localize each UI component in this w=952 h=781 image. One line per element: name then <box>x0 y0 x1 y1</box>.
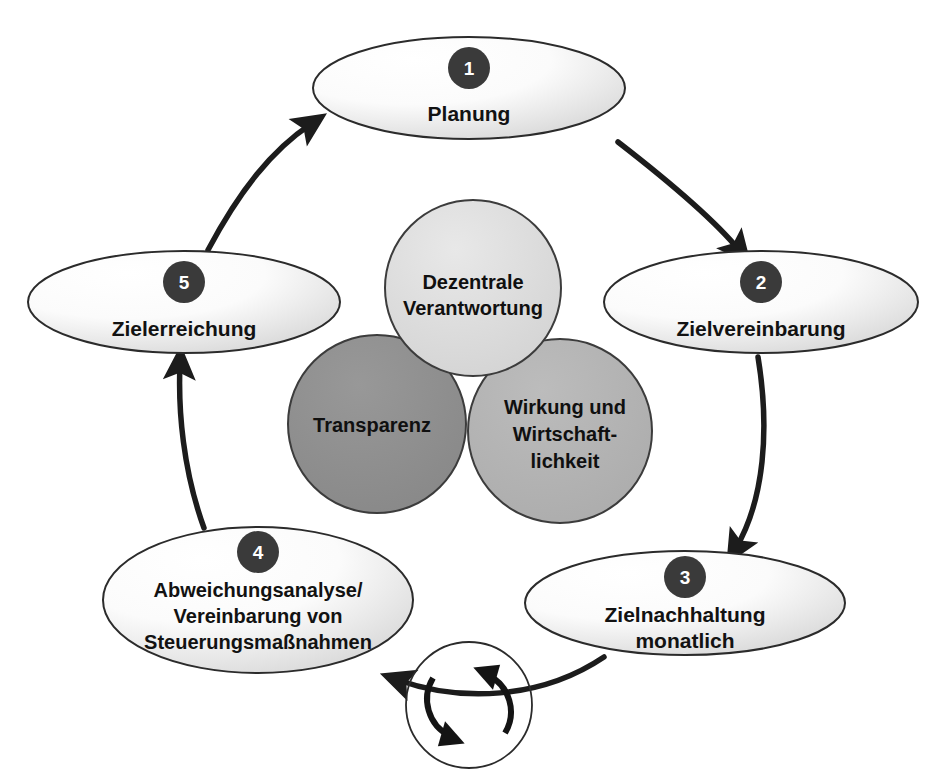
arrow-5-to-1 <box>208 124 311 250</box>
diagram-canvas: Dezentrale Verantwortung Transparenz Wir… <box>0 0 952 781</box>
core-label-wirkung-line3: lichkeit <box>531 450 600 472</box>
node-badge-number: 1 <box>464 58 475 79</box>
node-label-line1: Zielerreichung <box>112 317 257 340</box>
core-label-transparenz: Transparenz <box>313 414 431 436</box>
node-label-line1: Zielvereinbarung <box>676 317 845 340</box>
cycle-diagram: Dezentrale Verantwortung Transparenz Wir… <box>0 0 952 781</box>
node-label-line1: Planung <box>428 102 511 125</box>
node-badge-number: 3 <box>680 567 691 588</box>
node-badge-number: 5 <box>179 272 190 293</box>
cycle-node-2-zielvereinbarung[interactable]: 2 Zielvereinbarung <box>604 251 918 353</box>
cycle-node-4-abweichungsanalyse[interactable]: 4 Abweichungsanalyse/ Vereinbarung von S… <box>103 527 413 673</box>
circular-arrows-icon <box>406 642 532 768</box>
arrow-4-to-5 <box>180 364 204 528</box>
node-label-line1: Abweichungsanalyse/ <box>154 579 363 601</box>
core-label-wirkung-line2: Wirtschaft- <box>513 423 617 445</box>
node-badge-number: 4 <box>253 542 264 563</box>
cycle-node-3-zielnachhaltung[interactable]: 3 Zielnachhaltung monatlich <box>525 551 845 655</box>
cycle-icon-arrowhead-down <box>438 721 469 753</box>
arrow-1-to-2 <box>618 142 739 250</box>
cycle-node-1-planung[interactable]: 1 Planung <box>313 37 625 139</box>
core-label-dezentrale-line2: Verantwortung <box>403 297 543 319</box>
cycle-node-5-zielerreichung[interactable]: 5 Zielerreichung <box>28 251 340 353</box>
node-label-line3: Steuerungsmaßnahmen <box>144 631 372 653</box>
node-label-line2: Vereinbarung von <box>174 605 343 627</box>
core-label-dezentrale-line1: Dezentrale <box>422 271 523 293</box>
core-label-wirkung-line1: Wirkung und <box>504 396 626 418</box>
core-values-group: Dezentrale Verantwortung Transparenz Wir… <box>288 200 652 523</box>
arrow-2-to-3 <box>736 357 764 548</box>
node-label-line2: monatlich <box>635 629 734 652</box>
node-label-line1: Zielnachhaltung <box>604 603 765 626</box>
node-badge-number: 2 <box>756 272 767 293</box>
cycle-icon-arrowhead-up <box>469 658 500 690</box>
